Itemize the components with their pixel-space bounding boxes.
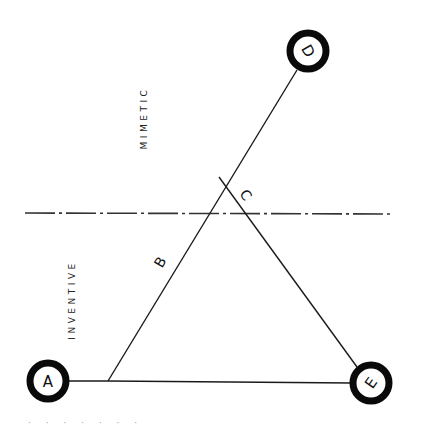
node-a[interactable]: A [30,363,66,399]
zone-label-mimetic: MIMETIC [139,87,149,150]
edge-b-line [108,70,297,381]
node-d[interactable]: D [290,33,326,69]
edge-c-label: C [237,186,256,203]
edge-base-to-e [108,381,352,383]
edge-c-line [219,177,357,367]
node-e[interactable]: E [353,365,389,401]
node-a-label: A [43,373,54,391]
edge-b-label: B [151,254,170,270]
footer-caption-fragment: · · · · · · · [28,418,143,428]
zone-label-inventive: INVENTIVE [67,260,77,339]
diagram-canvas: A D E B C MIMETIC INVENTIVE [0,0,426,432]
